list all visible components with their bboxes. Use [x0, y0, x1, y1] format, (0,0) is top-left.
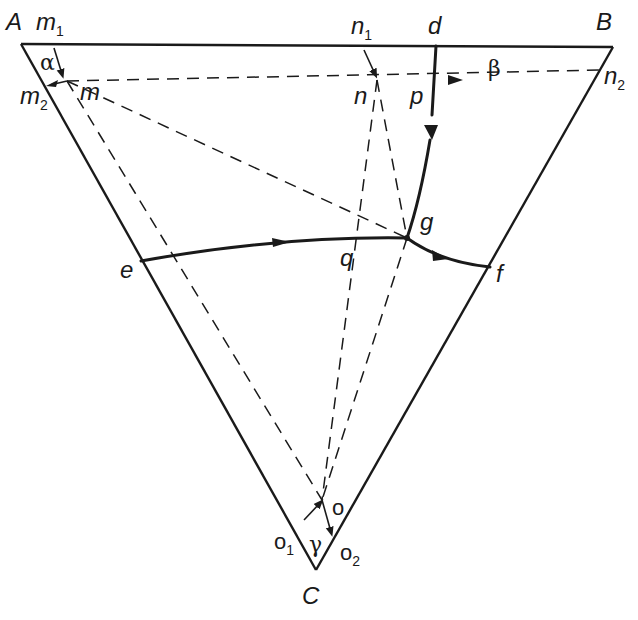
- arrow-o1-o: [304, 503, 320, 520]
- label-p: p: [409, 82, 423, 109]
- arrow-e-g: [272, 238, 290, 247]
- edge-BC: [316, 47, 613, 570]
- label-f: f: [496, 260, 505, 287]
- label-n: n: [354, 82, 367, 109]
- arrow-d-g: [424, 125, 438, 140]
- arrow-m1-m: [54, 48, 62, 74]
- label-e: e: [120, 256, 133, 283]
- label-B: B: [596, 8, 612, 35]
- label-m: m: [80, 78, 100, 105]
- construction-lines: [67, 70, 601, 500]
- dashed-n-g: [377, 80, 407, 238]
- label-o: o: [332, 495, 344, 520]
- dashed-m-n2: [67, 70, 601, 81]
- edge-AC: [21, 44, 316, 570]
- label-q: q: [340, 244, 354, 271]
- label-beta: β: [488, 56, 501, 81]
- label-m1: m1: [36, 8, 64, 39]
- ternary-diagram: A B C m1 m2 m n1 n n2 d p g e f q o o1 o…: [0, 0, 638, 620]
- eutectic-point-g: [404, 235, 410, 241]
- edge-AB: [21, 44, 613, 47]
- arrow-o-o2: [322, 500, 331, 532]
- arrow-n1-n: [364, 50, 375, 74]
- curve-g-f: [407, 238, 490, 267]
- curve-d-p: [432, 46, 436, 115]
- label-A: A: [4, 8, 22, 35]
- label-gamma: γ: [309, 532, 322, 557]
- label-C: C: [302, 582, 320, 609]
- label-alpha: α: [40, 50, 55, 75]
- label-d: d: [428, 12, 442, 39]
- arrow-g-f: [432, 250, 448, 261]
- dashed-m-o: [67, 81, 322, 500]
- arrow-m-m2: [46, 80, 58, 87]
- arrow-p-n2: [448, 75, 463, 85]
- boundary-curves: [141, 46, 490, 267]
- label-g: g: [420, 208, 434, 235]
- label-o1: o1: [274, 529, 294, 558]
- dashed-g-o: [322, 238, 407, 500]
- label-n2: n2: [604, 62, 625, 93]
- label-n1: n1: [351, 12, 372, 43]
- dashed-n-o: [322, 80, 377, 500]
- label-o2: o2: [340, 540, 360, 569]
